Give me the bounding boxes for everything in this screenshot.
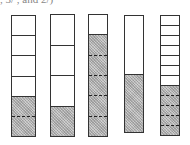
bar-1 [11, 15, 36, 137]
empty-segment [125, 16, 143, 74]
shaded-segment [89, 116, 107, 136]
shaded-segment [89, 55, 107, 75]
shaded-segment [51, 106, 74, 137]
empty-segment [51, 75, 74, 106]
shaded-segment [89, 95, 107, 115]
shaded-segment [89, 34, 107, 54]
shaded-segment [89, 75, 107, 95]
shaded-segment [161, 85, 179, 95]
caption-fragment: , 3/ , and 2/) [0, 0, 53, 5]
empty-segment [161, 65, 179, 75]
empty-segment [161, 25, 179, 35]
bar-5 [160, 15, 180, 136]
empty-segment [161, 75, 179, 85]
bar-4 [124, 15, 144, 133]
empty-segment [51, 45, 74, 76]
empty-segment [161, 16, 179, 25]
shaded-segment [12, 116, 35, 136]
shaded-segment [161, 105, 179, 115]
bar-2 [50, 14, 75, 137]
empty-segment [161, 55, 179, 65]
shaded-segment [161, 95, 179, 105]
empty-segment [12, 76, 35, 96]
empty-segment [12, 16, 35, 35]
empty-segment [161, 35, 179, 45]
empty-segment [89, 15, 107, 34]
bar-3 [88, 14, 108, 137]
empty-segment [161, 45, 179, 55]
shaded-segment [12, 96, 35, 116]
empty-segment [12, 35, 35, 55]
empty-segment [12, 55, 35, 75]
empty-segment [51, 15, 74, 45]
shaded-segment [125, 74, 143, 133]
shaded-segment [161, 115, 179, 125]
shaded-segment [161, 125, 179, 135]
